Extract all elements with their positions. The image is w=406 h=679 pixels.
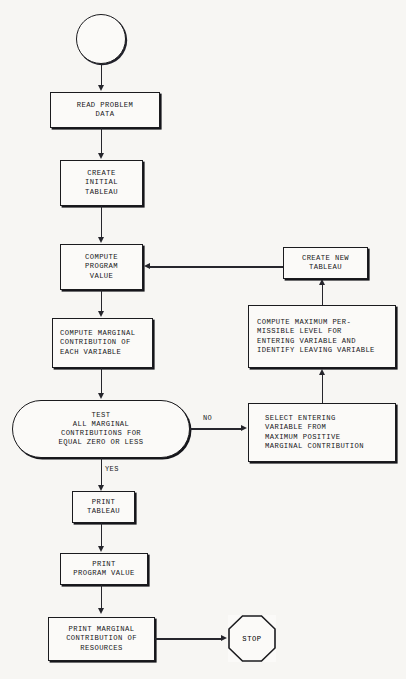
node-print-tableau-label: PRINT TABLEAU <box>87 498 120 516</box>
edge-create-initial-to-compute-value <box>101 206 103 238</box>
node-test-decision-label: TEST ALL MARGINAL CONTRIBUTIONS FOR EQUA… <box>59 411 144 448</box>
node-compute-maximum-level: COMPUTE MAXIMUM PER- MISSIBLE LEVEL FOR … <box>248 305 396 368</box>
node-create-initial-tableau: CREATE INITIAL TABLEAU <box>60 160 143 206</box>
arrowhead-create-new-to-compute-value <box>144 263 150 269</box>
edge-select-to-compute-max <box>322 375 324 403</box>
arrowhead-print-value-to-print-marginal <box>98 608 104 614</box>
edge-compute-value-to-marginal <box>101 290 103 312</box>
arrowhead-marginal-to-test <box>98 393 104 399</box>
flowchart-canvas: READ PROBLEM DATA CREATE INITIAL TABLEAU… <box>0 0 406 679</box>
node-select-entering-variable: SELECT ENTERING VARIABLE FROM MAXIMUM PO… <box>248 403 396 462</box>
node-create-new-tableau: CREATE NEW TABLEAU <box>283 247 368 279</box>
arrowhead-print-tableau-to-print-value <box>98 546 104 552</box>
node-print-tableau: PRINT TABLEAU <box>72 491 135 523</box>
edge-test-no-to-select <box>190 428 243 430</box>
edge-read-to-create-initial <box>101 128 103 154</box>
arrowhead-start-to-read <box>98 85 104 91</box>
edge-create-new-to-compute-value <box>150 266 283 268</box>
arrowhead-compute-value-to-marginal <box>98 311 104 317</box>
node-print-marginal-contribution: PRINT MARGINAL CONTRIBUTION OF RESOURCES <box>48 617 155 661</box>
node-read-problem-data: READ PROBLEM DATA <box>50 92 160 128</box>
arrowhead-select-to-compute-max <box>319 369 325 375</box>
edge-marginal-to-test <box>101 368 103 394</box>
node-compute-program-value: COMPUTE PROGRAM VALUE <box>60 244 143 290</box>
arrowhead-read-to-create-initial <box>98 153 104 159</box>
node-print-program-value-label: PRINT PROGRAM VALUE <box>73 560 134 578</box>
edge-start-to-read <box>101 64 103 86</box>
edge-compute-max-to-create-new <box>322 285 324 305</box>
arrowhead-print-marginal-to-stop <box>221 635 227 641</box>
edge-label-yes: YES <box>105 465 119 473</box>
edge-print-value-to-print-marginal <box>101 585 103 609</box>
node-test-decision: TEST ALL MARGINAL CONTRIBUTIONS FOR EQUA… <box>12 400 190 458</box>
node-stop: STOP <box>228 615 276 662</box>
arrowhead-create-initial-to-compute-value <box>98 237 104 243</box>
node-stop-label: STOP <box>242 635 261 643</box>
arrowhead-test-no-to-select <box>241 425 247 431</box>
node-compute-program-value-label: COMPUTE PROGRAM VALUE <box>85 253 118 281</box>
node-start <box>76 14 126 64</box>
node-print-program-value: PRINT PROGRAM VALUE <box>60 553 148 585</box>
edge-label-no: NO <box>203 414 212 422</box>
node-read-problem-data-label: READ PROBLEM DATA <box>77 101 134 119</box>
node-compute-marginal-contribution-label: COMPUTE MARGINAL CONTRIBUTION OF EACH VA… <box>60 329 135 357</box>
node-compute-maximum-level-label: COMPUTE MAXIMUM PER- MISSIBLE LEVEL FOR … <box>257 318 375 355</box>
node-print-marginal-contribution-label: PRINT MARGINAL CONTRIBUTION OF RESOURCES <box>66 625 137 653</box>
edge-print-tableau-to-print-value <box>101 523 103 547</box>
edge-test-yes-to-print-tableau <box>101 458 103 486</box>
edge-print-marginal-to-stop <box>155 638 223 640</box>
node-compute-marginal-contribution: COMPUTE MARGINAL CONTRIBUTION OF EACH VA… <box>52 318 153 368</box>
node-create-new-tableau-label: CREATE NEW TABLEAU <box>302 254 349 272</box>
arrowhead-compute-max-to-create-new <box>319 279 325 285</box>
node-create-initial-tableau-label: CREATE INITIAL TABLEAU <box>85 169 118 197</box>
node-select-entering-variable-label: SELECT ENTERING VARIABLE FROM MAXIMUM PO… <box>265 414 364 451</box>
